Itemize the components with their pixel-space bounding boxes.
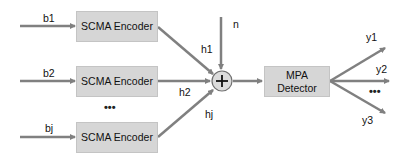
connector-arrows xyxy=(0,0,407,160)
channel-label-h1: h1 xyxy=(201,43,213,55)
output-label-y3: y3 xyxy=(362,114,373,126)
channel-label-h2: h2 xyxy=(179,86,191,98)
output-label-y2: y2 xyxy=(376,63,387,75)
scma-encoder-2: SCMA Encoder xyxy=(76,66,158,97)
scma-system-diagram: b1 b2 bj SCMA Encoder SCMA Encoder ••• S… xyxy=(0,0,407,160)
noise-label: n xyxy=(233,18,239,30)
encoder-ellipsis: ••• xyxy=(104,101,116,113)
detector-label-line1: MPA xyxy=(286,69,308,82)
detector-label-line2: Detector xyxy=(277,82,317,95)
encoder-label: SCMA Encoder xyxy=(81,20,153,33)
input-label-b1: b1 xyxy=(43,12,55,24)
input-label-bj: bj xyxy=(45,122,53,134)
encoder-label: SCMA Encoder xyxy=(81,75,153,88)
channel-label-hj: hj xyxy=(205,108,213,120)
scma-encoder-j: SCMA Encoder xyxy=(76,122,158,153)
scma-encoder-1: SCMA Encoder xyxy=(76,11,158,42)
mpa-detector: MPA Detector xyxy=(264,66,330,97)
output-label-y1: y1 xyxy=(366,31,377,43)
output-ellipsis: ••• xyxy=(369,85,381,97)
input-label-b2: b2 xyxy=(43,67,55,79)
encoder-label: SCMA Encoder xyxy=(81,131,153,144)
